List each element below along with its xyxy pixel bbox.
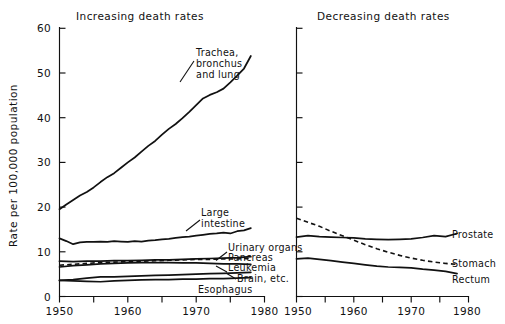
panel-title-increasing: Increasing death rates xyxy=(76,10,204,22)
series-label-stomach: Stomach xyxy=(452,258,496,269)
series-label-esophagus: Esophagus xyxy=(198,284,252,295)
panel-decreasing: Decreasing death rates 1950 xyxy=(284,10,496,317)
y-tick-40: 40 xyxy=(37,112,51,124)
series-label-large-line2: intestine xyxy=(201,218,245,229)
cancer-death-rates-chart: Increasing death rates Rate per 100,000 … xyxy=(0,0,505,324)
y-tick-10: 10 xyxy=(37,246,51,258)
y-axis-title: Rate per 100,000 population xyxy=(7,84,19,247)
panel-title-decreasing: Decreasing death rates xyxy=(317,10,450,22)
left-x-ticks: 1950 1960 1970 1980 xyxy=(46,297,279,318)
series-line-large-intestine xyxy=(60,228,251,244)
series-label-trachea-line1: Trachea, xyxy=(195,47,238,58)
series-label-large-line1: Large xyxy=(201,207,229,218)
x-tick-1950: 1950 xyxy=(46,305,74,317)
x-tick-1960: 1960 xyxy=(114,305,142,317)
x-tick-1970: 1970 xyxy=(182,305,210,317)
series-line-prostate xyxy=(297,233,458,239)
y-tick-30: 30 xyxy=(37,156,51,168)
series-label-trachea-line3: and lung xyxy=(196,69,240,80)
series-label-brain-etc: Brain, etc. xyxy=(237,273,289,284)
right-axis-lines xyxy=(297,28,469,297)
series-label-rectum: Rectum xyxy=(452,274,490,285)
series-line-rectum xyxy=(297,258,458,274)
figure-canvas: Increasing death rates Rate per 100,000 … xyxy=(0,0,505,324)
series-line-leukemia xyxy=(60,263,251,267)
y-tick-0: 0 xyxy=(44,291,51,303)
x-tick-r-1980: 1980 xyxy=(453,305,481,317)
y-tick-20: 20 xyxy=(37,201,51,213)
right-y-ticks xyxy=(297,28,303,296)
series-label-leukemia: Leukemia xyxy=(228,262,276,273)
x-tick-1980: 1980 xyxy=(251,305,279,317)
series-line-stomach xyxy=(297,218,458,264)
right-x-ticks: 1950 1960 1970 1980 xyxy=(284,297,481,318)
x-tick-r-1970: 1970 xyxy=(397,305,425,317)
right-series-lines xyxy=(297,218,458,273)
left-series-lines xyxy=(60,56,251,282)
x-tick-r-1960: 1960 xyxy=(340,305,368,317)
panel-increasing: Increasing death rates Rate per 100,000 … xyxy=(7,10,302,317)
series-label-prostate: Prostate xyxy=(452,229,494,240)
y-tick-50: 50 xyxy=(37,67,51,79)
y-tick-60: 60 xyxy=(37,22,51,34)
x-tick-r-1950: 1950 xyxy=(284,305,312,317)
series-label-trachea-line2: bronchus xyxy=(196,58,242,69)
right-series-labels: Prostate Stomach Rectum xyxy=(452,229,496,285)
